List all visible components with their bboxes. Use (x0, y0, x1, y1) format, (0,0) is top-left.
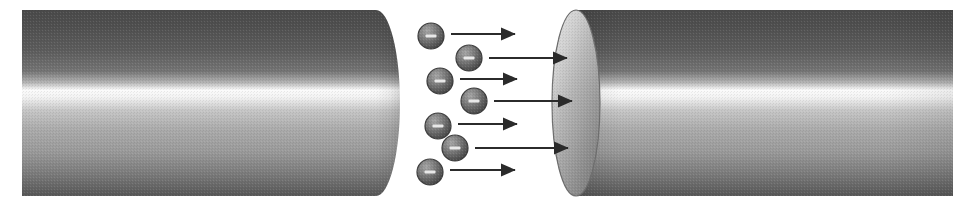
left-cylinder-texture (22, 10, 400, 196)
electron-beam: ------- (417, 23, 572, 185)
right-cylinder-texture (576, 10, 953, 196)
minus-sign-icon (433, 125, 444, 128)
electron-2: - (456, 45, 482, 71)
electron-4: - (461, 88, 487, 114)
electron-5: - (425, 113, 451, 139)
minus-sign-icon (435, 80, 446, 83)
electron-6: - (442, 135, 468, 161)
left-cylinder (22, 10, 400, 196)
minus-sign-icon (425, 171, 436, 174)
right-cylinder (552, 10, 953, 196)
electron-1: - (418, 23, 444, 49)
minus-sign-icon (469, 100, 480, 103)
electron-beam-diagram: ------- (0, 0, 975, 206)
electron-7: - (417, 159, 443, 185)
electron-3: - (427, 68, 453, 94)
diagram-canvas: ------- Electron beam travelling from on… (0, 0, 975, 206)
minus-sign-icon (426, 35, 437, 38)
minus-sign-icon (450, 147, 461, 150)
minus-sign-icon (464, 57, 475, 60)
right-cylinder-end-face-texture (552, 10, 600, 196)
